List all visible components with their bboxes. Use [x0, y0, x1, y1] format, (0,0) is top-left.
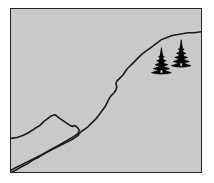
artwork-caption: Framed monochrome landscape sketch with … [0, 0, 1, 1]
artboard: Mountain Landscape Line Drawing Framed m… [0, 0, 214, 183]
landscape-scene [11, 9, 201, 172]
gray-field-background [11, 9, 201, 172]
artwork-title: Mountain Landscape Line Drawing [0, 0, 1, 1]
picture-frame [10, 8, 202, 173]
